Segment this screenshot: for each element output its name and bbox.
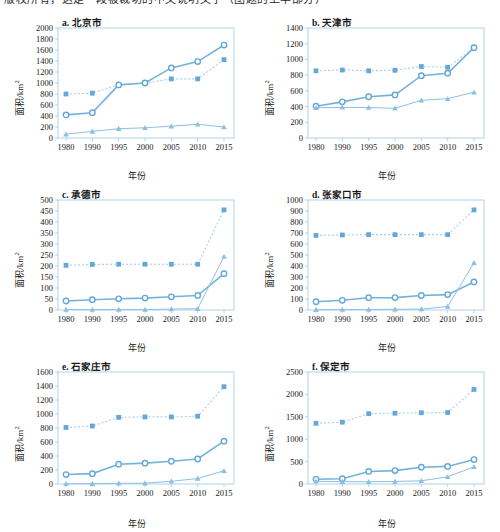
panel-f-data-point: [366, 469, 371, 474]
y-tick-label: 0: [299, 133, 303, 143]
x-tick-label: 1995: [110, 142, 127, 152]
x-tick-label: 2015: [466, 488, 483, 498]
x-tick-label: 1995: [360, 488, 377, 498]
y-tick-label: 800: [290, 70, 303, 80]
x-tick-label: 2015: [466, 314, 483, 324]
panel-f-data-point: [314, 421, 319, 426]
panel-f: f. 保定市面积/km2年份05001000150020002500198019…: [250, 356, 500, 532]
y-tick-label: 400: [40, 111, 53, 121]
y-tick-label: 700: [290, 228, 303, 238]
y-tick-label: 1000: [36, 78, 53, 88]
panel-e-data-point: [63, 472, 68, 477]
panel-e-data-point: [64, 425, 69, 430]
y-tick-label: 250: [40, 250, 53, 260]
panel-c-data-point: [169, 294, 174, 299]
y-tick-label: 0: [299, 305, 303, 315]
panel-c-data-point: [142, 295, 147, 300]
y-tick-label: 300: [290, 272, 303, 282]
y-axis-label-exponent: 2: [263, 426, 270, 429]
panel-b-data-point: [392, 92, 397, 97]
y-tick-label: 400: [290, 102, 303, 112]
panel-b-series-square-dotted-line: [316, 48, 474, 71]
panel-e-svg: 0200400600800100012001400160019801990199…: [58, 372, 234, 510]
y-tick-label: 1200: [286, 39, 303, 49]
x-tick-label: 2015: [216, 142, 233, 152]
y-tick-label: 1800: [36, 34, 53, 44]
panel-b-data-point: [393, 68, 398, 73]
y-tick-label: 0: [49, 133, 53, 143]
panel-c-data-point: [195, 293, 200, 298]
y-tick-label: 200: [290, 283, 303, 293]
panel-f-data-point: [392, 468, 397, 473]
y-axis-label-exponent: 2: [13, 80, 20, 83]
y-axis-label-text: 面积/km: [265, 430, 275, 462]
panel-d-x-axis-label: 年份: [250, 341, 500, 354]
panel-b-svg: 0200400600800100012001400198019901995200…: [308, 28, 484, 164]
panel-b-plot-area: 0200400600800100012001400198019901995200…: [308, 28, 484, 138]
panel-f-data-point: [445, 464, 450, 469]
panel-c-data-point: [64, 263, 69, 268]
y-tick-label: 450: [40, 206, 53, 216]
y-tick-label: 100: [40, 283, 53, 293]
x-tick-label: 1995: [110, 488, 127, 498]
y-tick-label: 200: [290, 117, 303, 127]
x-tick-label: 2005: [163, 314, 180, 324]
y-tick-label: 2000: [36, 23, 53, 33]
panel-b-data-point: [445, 65, 450, 70]
y-tick-label: 800: [290, 217, 303, 227]
y-tick-label: 300: [40, 239, 53, 249]
y-tick-label: 2500: [286, 367, 303, 377]
figure-panel-grid: a. 北京市面积/km2年份02004006008001000120014001…: [0, 12, 500, 532]
y-axis-label-text: 面积/km: [15, 84, 25, 116]
panel-c-y-axis-label: 面积/km2: [13, 252, 26, 287]
x-tick-label: 2010: [189, 142, 206, 152]
panel-f-data-point: [419, 410, 424, 415]
y-axis-label-text: 面积/km: [15, 256, 25, 288]
panel-d-svg: 0100200300400500600700800900100019801990…: [308, 200, 484, 336]
panel-e-data-point: [169, 415, 174, 420]
panel-d-data-point: [445, 292, 450, 297]
panel-d-data-point: [471, 260, 477, 265]
panel-c-svg: 0501001502002503003504004505001980199019…: [58, 200, 234, 336]
panel-a-data-point: [90, 110, 95, 115]
x-tick-label: 1990: [84, 142, 101, 152]
y-tick-label: 2000: [286, 389, 303, 399]
panel-c-series-square-dotted-line: [66, 210, 224, 265]
panel-d-data-point: [392, 295, 397, 300]
panel-e: e. 石家庄市面积/km2年份0200400600800100012001400…: [0, 356, 250, 532]
panel-b-data-point: [419, 64, 424, 69]
panel-a-data-point: [221, 42, 226, 47]
y-tick-label: 600: [40, 437, 53, 447]
panel-a-x-axis-label: 年份: [0, 169, 250, 182]
panel-e-data-point: [222, 384, 227, 389]
y-axis-label-exponent: 2: [263, 252, 270, 255]
x-tick-label: 1980: [58, 142, 75, 152]
y-tick-label: 1600: [36, 45, 53, 55]
y-tick-label: 800: [40, 89, 53, 99]
panel-a-series-square-dotted-line: [66, 60, 224, 94]
panel-d-data-point: [340, 233, 345, 238]
panel-f-series-square-dotted-line: [316, 390, 474, 424]
panel-b-data-point: [366, 94, 371, 99]
y-axis-label-text: 面积/km: [265, 256, 275, 288]
panel-d-data-point: [419, 293, 424, 298]
x-tick-label: 1990: [84, 314, 101, 324]
y-axis-label-exponent: 2: [263, 80, 270, 83]
x-tick-label: 1995: [360, 142, 377, 152]
panel-b-data-point: [366, 68, 371, 73]
panel-e-data-point: [90, 424, 95, 429]
panel-d-plot-area: 0100200300400500600700800900100019801990…: [308, 200, 484, 310]
panel-e-data-point: [116, 461, 121, 466]
cut-off-caption-text: 版权所有，这是一段被裁切的中文说明文字（图题的上半部分）: [4, 0, 500, 5]
panel-b-data-point: [340, 68, 345, 73]
x-tick-label: 2015: [216, 314, 233, 324]
plot-frame: [308, 200, 484, 310]
panel-c-data-point: [116, 262, 121, 267]
x-tick-label: 2005: [163, 488, 180, 498]
y-tick-label: 900: [290, 206, 303, 216]
y-tick-label: 0: [49, 479, 53, 489]
panel-a-plot-area: 0200400600800100012001400160018002000198…: [58, 28, 234, 138]
y-tick-label: 1000: [36, 409, 53, 419]
x-tick-label: 2010: [189, 488, 206, 498]
y-tick-label: 200: [40, 122, 53, 132]
